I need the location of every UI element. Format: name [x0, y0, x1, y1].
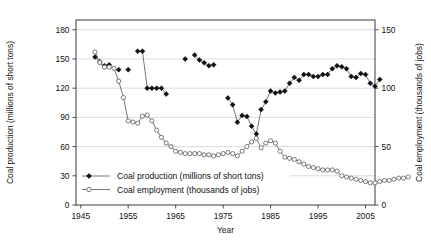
y-tick-label: 60: [60, 142, 70, 152]
chart-figure: 0306090120150180050100150194519551965197…: [0, 0, 431, 250]
coal-production-employment-chart: 0306090120150180050100150194519551965197…: [0, 0, 431, 250]
y-tick-label: 180: [56, 25, 70, 35]
x-tick-label: 1965: [166, 211, 185, 221]
legend-label-1: Coal production (millions of short tons): [117, 171, 264, 181]
data-point: [159, 135, 163, 139]
data-point: [197, 151, 201, 155]
y2-tick-label: 150: [382, 25, 396, 35]
data-point: [183, 151, 187, 155]
data-point: [397, 176, 401, 180]
data-point: [387, 178, 391, 182]
x-axis: 1945195519651975198519952005: [71, 205, 375, 221]
data-point: [150, 119, 154, 123]
y-tick-label: 90: [60, 112, 70, 122]
data-point: [297, 160, 301, 164]
y-tick-label: 150: [56, 54, 70, 64]
data-point: [87, 187, 91, 191]
data-point: [283, 155, 287, 159]
x-axis-title: Year: [217, 225, 234, 235]
data-point: [235, 154, 239, 158]
legend-label-2: Coal employment (thousands of jobs): [117, 185, 259, 195]
data-point: [377, 77, 382, 82]
data-point: [378, 180, 382, 184]
data-point: [306, 164, 310, 168]
data-point: [264, 141, 268, 145]
data-point: [169, 144, 173, 148]
y2-tick-label: 50: [382, 142, 392, 152]
data-point: [112, 66, 116, 70]
data-point: [164, 141, 168, 145]
data-point: [131, 120, 135, 124]
data-point: [316, 167, 320, 171]
y-axis-title: Coal production (millions of short tons): [5, 41, 15, 184]
x-tick-label: 2005: [356, 211, 375, 221]
data-point: [231, 151, 235, 155]
y-tick-label: 0: [65, 200, 70, 210]
y2-tick-label: 100: [382, 83, 396, 93]
data-point: [311, 166, 315, 170]
data-point: [335, 169, 339, 173]
data-point: [344, 175, 348, 179]
data-point: [155, 128, 159, 132]
data-point: [259, 146, 263, 150]
data-point: [368, 181, 372, 185]
data-point: [330, 168, 334, 172]
data-point: [226, 150, 230, 154]
data-point: [221, 151, 225, 155]
data-point: [193, 151, 197, 155]
data-point: [117, 79, 121, 83]
x-tick-label: 1985: [261, 211, 280, 221]
y2-tick-label: 0: [382, 200, 387, 210]
y2-axis-title: Coal employment (thousands of jobs): [414, 43, 424, 182]
data-point: [202, 153, 206, 157]
y-tick-label: 120: [56, 83, 70, 93]
data-point: [392, 177, 396, 181]
data-point: [145, 113, 149, 117]
data-point: [363, 180, 367, 184]
y-axis-left: 0306090120150180: [56, 25, 76, 210]
data-point: [102, 65, 106, 69]
data-point: [140, 114, 144, 118]
data-point: [278, 149, 282, 153]
data-point: [250, 140, 254, 144]
data-point: [401, 176, 405, 180]
x-tick-label: 1975: [214, 211, 233, 221]
data-point: [107, 65, 111, 69]
data-point: [121, 95, 125, 99]
x-tick-label: 1995: [309, 211, 328, 221]
data-point: [373, 181, 377, 185]
data-point: [406, 175, 410, 179]
data-point: [98, 60, 102, 64]
data-point: [340, 174, 344, 178]
data-point: [93, 50, 97, 54]
data-point: [321, 168, 325, 172]
data-point: [178, 150, 182, 154]
data-point: [174, 149, 178, 153]
chart-legend: Coal production (millions of short tons)…: [78, 167, 290, 196]
data-point: [245, 144, 249, 148]
data-point: [254, 136, 258, 140]
x-tick-label: 1945: [71, 211, 90, 221]
x-tick-label: 1955: [119, 211, 138, 221]
data-point: [188, 151, 192, 155]
data-point: [240, 149, 244, 153]
data-point: [302, 162, 306, 166]
data-point: [349, 176, 353, 180]
data-point: [359, 178, 363, 182]
data-point: [268, 139, 272, 143]
data-point: [382, 178, 386, 182]
data-point: [212, 154, 216, 158]
data-point: [287, 156, 291, 160]
data-point: [325, 168, 329, 172]
data-point: [273, 141, 277, 145]
data-point: [136, 121, 140, 125]
y-tick-label: 30: [60, 171, 70, 181]
data-point: [292, 157, 296, 161]
data-point: [126, 119, 130, 123]
data-point: [354, 177, 358, 181]
data-point: [207, 153, 211, 157]
data-point: [216, 153, 220, 157]
